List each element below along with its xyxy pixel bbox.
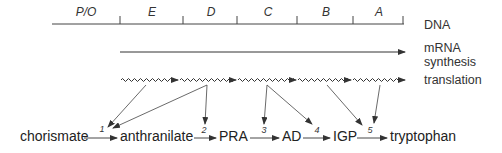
gene-label-d: D (207, 5, 216, 19)
translation-wavy-line (121, 79, 405, 82)
dna-label: DNA (424, 18, 450, 32)
translation-label: translation (424, 73, 482, 87)
synthesis-label: synthesis (424, 55, 476, 69)
compound-chorismate: chorismate (20, 128, 88, 144)
compound-igp: IGP (333, 128, 357, 144)
compound-tryptophan: tryptophan (390, 128, 456, 144)
step-number-2: 2 (201, 125, 206, 135)
gene-label-b: B (322, 5, 330, 19)
step-number-1: 1 (99, 124, 104, 134)
gene-label-e: E (148, 5, 156, 19)
gene-label-c: C (264, 5, 273, 19)
compound-ad: AD (282, 128, 301, 144)
gene-label-a: A (375, 5, 383, 19)
dna-line (52, 16, 404, 24)
enzyme-connectors (108, 85, 380, 128)
mrna-label: mRNA (424, 41, 461, 55)
gene-label-po: P/O (76, 5, 97, 19)
compound-pra: PRA (219, 128, 248, 144)
step-number-3: 3 (261, 125, 266, 135)
step-number-5: 5 (367, 125, 372, 135)
step-number-4: 4 (314, 125, 319, 135)
compound-anthranilate: anthranilate (120, 128, 193, 144)
